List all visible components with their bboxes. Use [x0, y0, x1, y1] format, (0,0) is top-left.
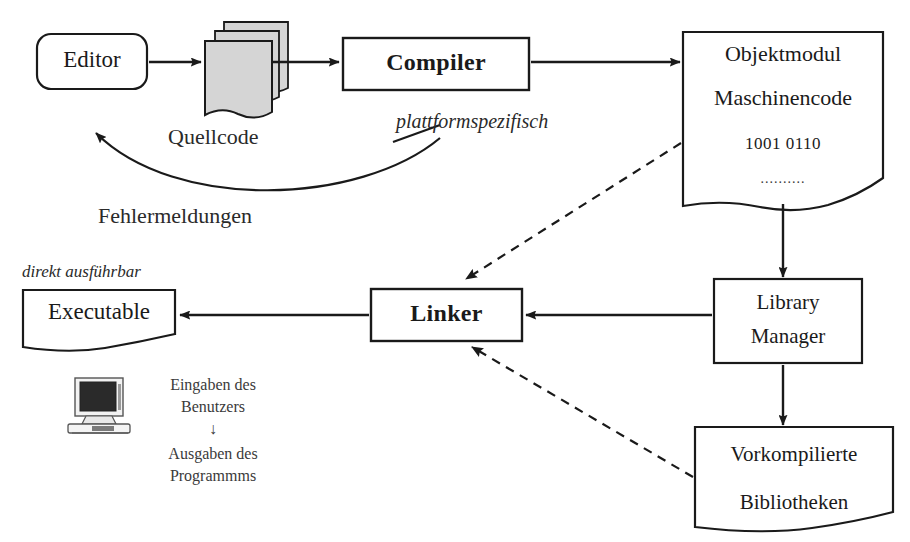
edge-label-fehlermeldungen: Fehlermeldungen — [98, 203, 252, 229]
arrow-objektmodul-to-linker-dashed — [466, 143, 681, 279]
edge-label-direkt-ausfuehrbar: direkt ausführbar — [22, 262, 141, 282]
io-label-programmms: Programmms — [138, 467, 288, 485]
io-label-benutzers: Benutzers — [138, 398, 288, 416]
node-library-manager-shape[interactable] — [714, 279, 862, 363]
node-objektmodul-shape[interactable] — [683, 32, 883, 210]
edge-label-plattformspezifisch: plattformspezifisch — [396, 110, 548, 133]
node-quellcode-label: Quellcode — [168, 124, 258, 150]
node-linker-shape[interactable] — [371, 289, 522, 341]
io-label-eingaben: Eingaben des — [138, 376, 288, 394]
io-label-ausgaben: Ausgaben des — [138, 445, 288, 463]
node-executable-shape[interactable] — [23, 290, 175, 351]
node-bibliotheken-shape[interactable] — [695, 427, 893, 531]
diagram-canvas: Editor Compiler Objektmodul Maschinencod… — [0, 0, 910, 542]
io-down-arrow-icon: ↓ — [138, 420, 288, 438]
computer-icon — [68, 378, 130, 433]
node-editor-shape[interactable] — [37, 34, 147, 89]
arrow-fehlermeldungen-curve — [96, 133, 440, 190]
node-compiler-shape[interactable] — [343, 38, 529, 90]
arrow-bibliotheken-to-linker-dashed — [472, 347, 693, 477]
node-quellcode-shape[interactable] — [205, 22, 288, 118]
